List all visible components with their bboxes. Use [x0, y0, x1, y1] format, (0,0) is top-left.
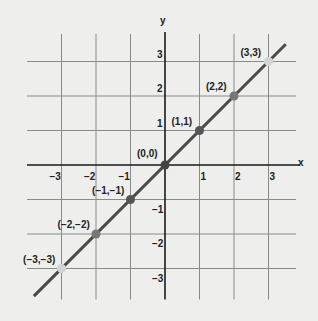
point-label: (−2,−2): [58, 219, 90, 230]
x-axis-label: x: [298, 157, 304, 168]
data-point: [92, 230, 101, 239]
point-label: (1,1): [172, 116, 193, 127]
x-tick-label: −3: [50, 171, 62, 182]
point-label: (3,3): [241, 47, 262, 58]
x-tick-label: 3: [270, 171, 276, 182]
x-tick-label: −1: [119, 171, 131, 182]
point-label: (−3,−3): [23, 254, 55, 265]
data-point: [264, 57, 273, 66]
y-tick-label: −3: [152, 273, 164, 284]
y-tick-label: −2: [152, 238, 164, 249]
point-label: (2,2): [206, 81, 227, 92]
y-tick-label: 1: [157, 118, 163, 129]
data-point: [126, 195, 135, 204]
data-point: [195, 126, 204, 135]
y-tick-label: 2: [157, 83, 163, 94]
line-chart: −3−2−1123321−1−2−3 (−3,−3)(−2,−2)(−1,−1)…: [0, 0, 318, 321]
x-tick-label: 1: [201, 171, 207, 182]
x-tick-label: 2: [235, 171, 241, 182]
data-point: [230, 92, 239, 101]
y-axis-label: y: [160, 15, 166, 26]
x-tick-label: −2: [84, 171, 96, 182]
y-tick-label: −1: [152, 204, 164, 215]
point-label: (0,0): [137, 148, 158, 159]
data-points: (−3,−3)(−2,−2)(−1,−1)(0,0)(1,1)(2,2)(3,3…: [23, 47, 273, 274]
y-tick-label: 3: [157, 49, 163, 60]
data-point: [161, 161, 170, 170]
data-point: [57, 264, 66, 273]
point-label: (−1,−1): [92, 185, 124, 196]
